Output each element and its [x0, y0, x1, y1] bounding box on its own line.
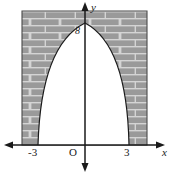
y-axis-label: y — [91, 2, 96, 13]
vertex-height-label: 8 — [75, 26, 80, 36]
x-axis-label: x — [162, 147, 167, 158]
arch-figure: y x O -3 3 8 — [0, 0, 171, 178]
tick-label-right-root: 3 — [124, 147, 130, 158]
arch-diagram-canvas — [0, 0, 171, 178]
tick-label-left-root: -3 — [28, 147, 37, 158]
origin-label: O — [69, 147, 77, 158]
